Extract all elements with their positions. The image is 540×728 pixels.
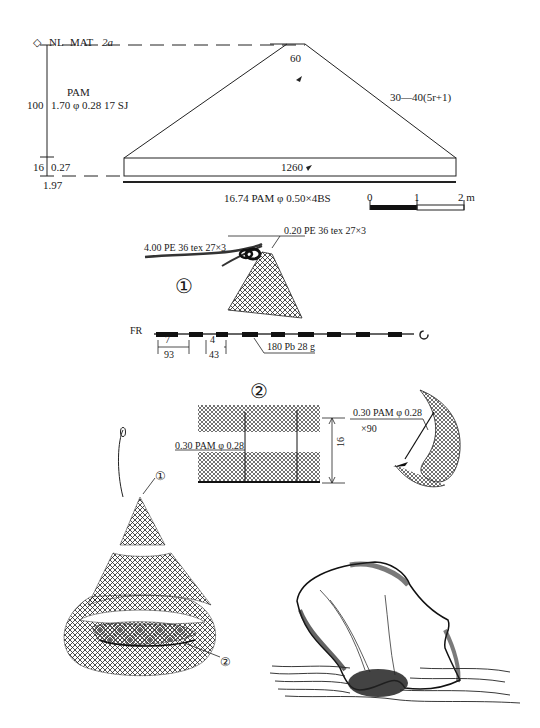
tie-line-right-spec: 0.30 PAM φ 0.28 (353, 408, 422, 418)
assembled-marker-1: ① (155, 470, 166, 482)
scale-tick-1: 1 (414, 192, 420, 203)
header-mat: MAT (70, 37, 93, 48)
header-symbol: ◇ (33, 37, 41, 48)
header-code: 2a (102, 37, 113, 48)
scale-tick-2: 2 m (458, 192, 475, 203)
left-material: PAM (67, 87, 90, 98)
bridle-spec: 0.20 PE 36 tex 27×3 (284, 226, 366, 236)
footrope-spacing-2-length: 43 (209, 350, 219, 360)
bottom-meshes: 1260 (281, 162, 303, 173)
tie-line-spec: 0.30 PAM φ 0.28 (175, 441, 244, 451)
footrope-label: FR (130, 326, 142, 336)
sinker-spec: 180 Pb 28 g (267, 342, 315, 352)
scale-tick-0: 0 (367, 192, 373, 203)
side-taper: 30—40(5r+1) (390, 92, 451, 103)
left-bottom-length: 0.27 (51, 162, 70, 173)
header-nl: NL (49, 37, 64, 48)
assembled-marker-2: ② (220, 656, 231, 668)
handline-spec: 4.00 PE 36 tex 27×3 (144, 243, 226, 253)
pocket-depth: 16 (336, 437, 346, 447)
tie-count: ×90 (361, 424, 377, 434)
left-bottom-meshes: 16 (33, 162, 44, 173)
left-total-length: 1.97 (43, 180, 62, 191)
top-meshes: 60 (290, 53, 301, 64)
detail-2-marker: ② (250, 381, 268, 401)
footrope-spacing-1-length: 93 (164, 350, 174, 360)
footrope-spacing-1: 7 (165, 335, 170, 345)
left-depth-meshes: 100 (27, 100, 44, 111)
leadline-spec: 16.74 PAM φ 0.50×4BS (224, 193, 331, 204)
footrope-spacing-2: 4 (210, 335, 215, 345)
left-spec: 1.70 φ 0.28 17 SJ (51, 100, 128, 111)
detail-1-marker: ① (175, 276, 193, 296)
